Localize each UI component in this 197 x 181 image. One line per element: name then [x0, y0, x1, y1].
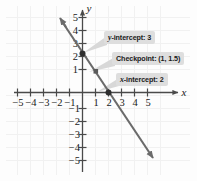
x-tick-label: −4 [25, 97, 37, 108]
x-tick-label: −2 [51, 97, 62, 108]
graph-canvas: −5 −4 −3 −2 −1 1 2 3 4 5 5 4 3 2 1 −1 −2… [0, 0, 197, 181]
x-tick-labels: −5 −4 −3 −2 −1 1 2 3 4 5 [12, 97, 150, 108]
x-tick-label: 1 [93, 97, 98, 108]
x-tick-label: −3 [38, 97, 49, 108]
y-tick-label: 5 [73, 12, 78, 23]
callout-checkpoint: Checkpoint: (1, 1.5) [112, 52, 184, 65]
y-tick-label: −5 [69, 155, 80, 166]
line-graph-arrow-start [60, 18, 66, 27]
x-tick-label: 2 [106, 97, 111, 108]
x-tick-label: −5 [12, 97, 23, 108]
grid-lines [6, 6, 190, 175]
callout-y-intercept-text: -intercept: 3 [111, 33, 151, 42]
point-y-intercept [80, 51, 86, 57]
y-tick-label: −1 [69, 103, 80, 114]
y-tick-label: 1 [73, 64, 78, 75]
point-checkpoint [94, 69, 99, 74]
callout-x-intercept-text: -intercept: 2 [124, 75, 164, 84]
callout-y-intercept: y-intercept: 3 [104, 31, 155, 44]
point-x-intercept [106, 90, 112, 96]
callout-x-intercept: x-intercept: 2 [116, 73, 168, 86]
y-tick-label: −3 [69, 129, 80, 140]
x-tick-label: 5 [145, 97, 150, 108]
y-tick-label: 4 [73, 25, 79, 36]
y-tick-label: −2 [69, 116, 80, 127]
y-tick-label: −4 [69, 142, 81, 153]
coordinate-plane-figure: −5 −4 −3 −2 −1 1 2 3 4 5 5 4 3 2 1 −1 −2… [0, 0, 197, 181]
y-axis-label: y [86, 2, 92, 14]
x-axis-label: x [181, 86, 187, 98]
callout-checkpoint-text: Checkpoint: (1, 1.5) [116, 54, 180, 63]
y-tick-label: 2 [73, 51, 78, 62]
x-tick-label: 3 [119, 97, 124, 108]
x-tick-label: 4 [132, 97, 138, 108]
